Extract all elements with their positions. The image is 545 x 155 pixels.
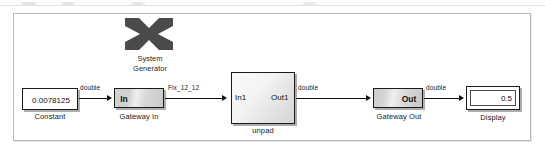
arrowhead-unpad-input [222,95,227,101]
gateway-out-port-text: Out [398,92,420,106]
wire-gatewayin-to-unpad [165,98,223,99]
toolbar-remnant-line [0,5,545,6]
gateway-in-port-text: In [117,92,131,106]
signal-label-double-1: double [80,84,100,91]
xilinx-x-logo-icon [124,16,174,52]
system-generator-title-line2: Generator [114,64,186,73]
display-value: 0.5 [470,90,516,106]
display-block[interactable]: 0.5 [466,86,520,110]
wire-unpad-to-gatewayout [296,98,368,99]
simulink-model-canvas[interactable]: System Generator 0.0078125 Constant doub… [0,0,545,155]
signal-label-double-2: double [298,84,318,91]
system-generator-title-line1: System [114,54,186,63]
constant-value: 0.0078125 [23,89,79,111]
display-block-label: Display [466,113,520,122]
gateway-in-block[interactable]: In [114,88,164,108]
arrowhead-gatewayout-input [366,95,371,101]
arrowhead-gatewayin-input [107,95,112,101]
constant-block-label: Constant [18,112,82,121]
constant-block[interactable]: 0.0078125 [22,88,78,110]
arrowhead-display-input [459,95,464,101]
gateway-out-block-label: Gateway Out [362,112,436,121]
gateway-out-block[interactable]: Out [373,88,423,108]
gateway-in-block-label: Gateway In [105,112,173,121]
wire-gatewayout-to-display [424,98,461,99]
signal-label-double-3: double [426,84,446,91]
unpad-output-port-label: Out1 [271,93,288,102]
unpad-block-label: unpad [234,126,292,135]
wire-constant-to-gatewayin [79,98,109,99]
system-generator-token-block[interactable]: System Generator [114,16,186,78]
unpad-input-port-label: In1 [235,93,246,102]
signal-label-fix-12-12: Fix_12_12 [168,84,199,91]
